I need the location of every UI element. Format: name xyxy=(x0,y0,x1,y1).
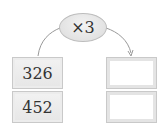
operation-ellipse: ×3 xyxy=(59,13,107,42)
output-column xyxy=(106,57,157,125)
input-column: 326 452 xyxy=(12,57,63,125)
input-cell: 452 xyxy=(12,91,63,123)
answer-cell[interactable] xyxy=(106,57,157,89)
answer-cell[interactable] xyxy=(106,91,157,123)
curve-left xyxy=(38,28,60,56)
operation-label: ×3 xyxy=(71,18,95,37)
input-cell: 326 xyxy=(12,57,63,89)
curve-right xyxy=(106,28,131,53)
